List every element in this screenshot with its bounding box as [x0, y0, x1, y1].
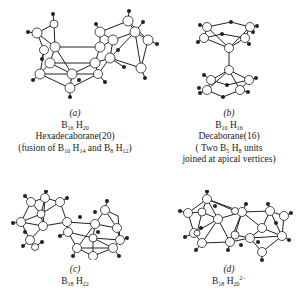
b16h20-structure-diagram	[0, 0, 160, 105]
panel-b-name: Decaborane(16)	[160, 131, 298, 143]
b18h20-dianion-structure-diagram	[172, 190, 294, 262]
panel-d-caption: (d) B18 H202−	[160, 264, 298, 287]
panel-b-note-line2: joined at apical vertices)	[160, 154, 298, 166]
b10h16-structure-diagram	[195, 18, 265, 103]
panel-a-formula: B16 H20	[0, 120, 150, 132]
panel-c-caption: (c) B18 H22	[0, 264, 150, 287]
panel-a-label: (a)	[0, 108, 150, 120]
panel-b-note: ( Two B5 H8 units	[160, 143, 298, 155]
panel-b-label: (b)	[160, 108, 298, 120]
panel-d-label: (d)	[160, 264, 298, 276]
panel-d-formula: B18 H202−	[160, 276, 298, 288]
panel-b-caption: (b) B10 H16 Decaborane(16) ( Two B5 H8 u…	[160, 108, 298, 166]
b18h22-structure-diagram	[5, 190, 135, 260]
panel-c-formula: B18 H22	[0, 276, 150, 288]
panel-c-label: (c)	[0, 264, 150, 276]
panel-b-formula: B10 H16	[160, 120, 298, 132]
panel-a-name: Hexadecaborane(20)	[0, 131, 150, 143]
panel-a-note: (fusion of B10 H14 and B8 H12)	[0, 143, 150, 155]
panel-a-caption: (a) B16 H20 Hexadecaborane(20) (fusion o…	[0, 108, 150, 154]
